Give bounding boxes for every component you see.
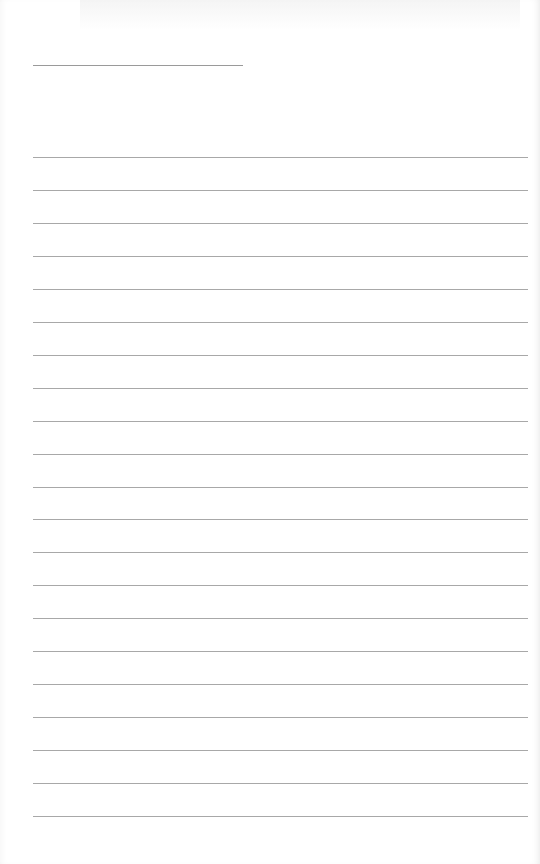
ruled-line (33, 190, 528, 191)
ruled-line (33, 289, 528, 290)
ruled-line (33, 421, 528, 422)
ruled-line (33, 684, 528, 685)
ruled-line (33, 388, 528, 389)
ruled-line (33, 651, 528, 652)
ruled-line (33, 454, 528, 455)
ruled-line (33, 750, 528, 751)
title-line (33, 65, 243, 66)
ruled-line (33, 783, 528, 784)
ruled-line (33, 157, 528, 158)
ruled-line (33, 355, 528, 356)
ruled-line (33, 256, 528, 257)
ruled-line (33, 519, 528, 520)
ruled-line (33, 618, 528, 619)
ruled-line (33, 487, 528, 488)
bleed-through-shadow (80, 0, 520, 30)
ruled-line (33, 223, 528, 224)
ruled-line (33, 717, 528, 718)
ruled-line (33, 585, 528, 586)
ruled-line (33, 552, 528, 553)
ruled-line (33, 816, 528, 817)
ruled-line (33, 322, 528, 323)
lined-page (0, 0, 540, 864)
